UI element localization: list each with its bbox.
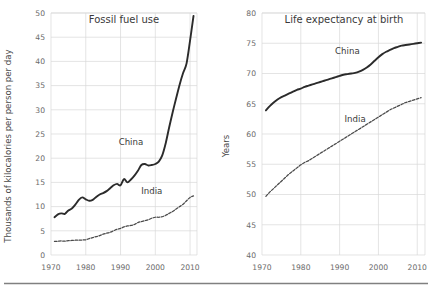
y-tick-label: 40 <box>35 57 45 66</box>
series-label-china: China <box>119 137 144 147</box>
y-tick-label: 5 <box>40 227 45 236</box>
y-tick-label: 35 <box>35 81 45 90</box>
x-tick-label: 1990 <box>330 263 349 272</box>
x-tick-label: 1970 <box>41 263 60 272</box>
y-tick-label: 45 <box>246 221 256 230</box>
y-tick-label: 65 <box>246 100 256 109</box>
panel-title-fossil-fuel-use: Fossil fuel use <box>89 14 159 25</box>
y-tick-label: 40 <box>246 251 256 260</box>
y-tick-label: 30 <box>35 106 45 115</box>
series-label-china: China <box>335 46 360 56</box>
y-tick-label: 70 <box>246 69 256 78</box>
x-tick-label: 2000 <box>146 263 165 272</box>
y-tick-label: 50 <box>35 9 45 18</box>
y-axis-title-fossil-fuel-use: Thousands of kilocalories per person per… <box>3 49 13 243</box>
y-axis-title-life-expectancy: Years <box>221 134 231 158</box>
two-panel-line-chart-figure: 05101520253035404550 1970198019902000201… <box>0 0 432 292</box>
y-tick-label: 20 <box>35 154 45 163</box>
x-tick-label: 2010 <box>408 263 427 272</box>
x-tick-label: 1990 <box>111 263 130 272</box>
figure-background <box>0 0 432 292</box>
y-tick-label: 45 <box>35 33 45 42</box>
x-tick-label: 1980 <box>291 263 310 272</box>
y-tick-label: 75 <box>246 39 256 48</box>
y-tick-label: 80 <box>246 9 256 18</box>
y-tick-label: 55 <box>246 160 256 169</box>
y-tick-label: 15 <box>35 178 45 187</box>
y-tick-label: 10 <box>35 202 45 211</box>
series-label-india: India <box>141 186 162 196</box>
y-tick-label: 50 <box>246 190 256 199</box>
y-tick-label: 60 <box>246 130 256 139</box>
series-label-india: India <box>345 114 366 124</box>
x-tick-label: 1980 <box>76 263 95 272</box>
y-tick-label: 0 <box>40 251 45 260</box>
x-tick-label: 2000 <box>369 263 388 272</box>
y-tick-label: 25 <box>35 130 45 139</box>
ytick-labels-life-expectancy: 404550556065707580 <box>246 9 256 260</box>
panel-title-life-expectancy: Life expectancy at birth <box>285 14 404 25</box>
x-tick-label: 2010 <box>180 263 199 272</box>
x-tick-label: 1970 <box>252 263 271 272</box>
